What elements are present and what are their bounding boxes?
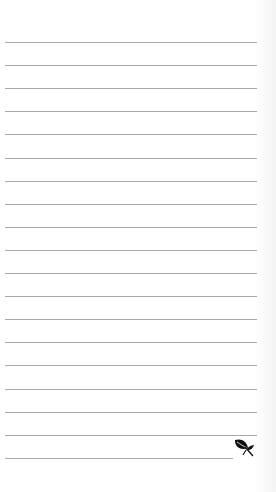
leaf-icon: [233, 437, 255, 459]
ruled-line: [5, 204, 257, 205]
ruled-line: [5, 435, 257, 436]
ruled-line: [5, 134, 257, 135]
ruled-line: [5, 227, 257, 228]
ruled-line: [5, 42, 257, 43]
ruled-line: [5, 273, 257, 274]
lined-paper: [0, 0, 276, 492]
ruled-line: [5, 158, 257, 159]
ruled-line: [5, 342, 257, 343]
ruled-line: [5, 65, 257, 66]
ruled-line: [5, 250, 257, 251]
ruled-line: [5, 319, 257, 320]
ruled-line: [5, 111, 257, 112]
ruled-line: [5, 296, 257, 297]
ruled-line: [5, 365, 257, 366]
ruled-line: [5, 181, 257, 182]
ruled-line: [5, 458, 233, 459]
ruled-line: [5, 389, 257, 390]
ruled-line: [5, 88, 257, 89]
ruled-line: [5, 412, 257, 413]
